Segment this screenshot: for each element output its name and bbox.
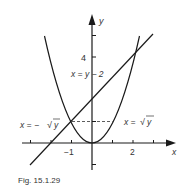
svg-text:y: y bbox=[146, 117, 152, 127]
svg-text:y: y bbox=[53, 120, 59, 130]
y-axis-arrow-icon bbox=[89, 14, 96, 25]
svg-text:√: √ bbox=[140, 117, 145, 127]
x-axis-arrow-icon bbox=[166, 140, 176, 147]
figure-canvas: y x 4 −1 2 x = y − 2 x = − √ y x = √ y F… bbox=[0, 0, 187, 189]
svg-text:x =: x = bbox=[123, 117, 136, 127]
line-equation-label: x = y − 2 bbox=[70, 69, 104, 79]
right-branch-label: x = √ y bbox=[123, 116, 154, 127]
svg-text:x = −: x = − bbox=[19, 120, 39, 130]
x-tick-label-neg1: −1 bbox=[64, 147, 74, 157]
y-tick-label-4: 4 bbox=[81, 53, 86, 63]
x-axis-label: x bbox=[171, 147, 177, 157]
left-branch-label: x = − √ y bbox=[19, 119, 60, 130]
figure-caption: Fig. 15.1.29 bbox=[18, 176, 61, 185]
x-tick-label-2: 2 bbox=[130, 147, 135, 157]
svg-text:√: √ bbox=[47, 120, 52, 130]
y-axis-label: y bbox=[98, 16, 104, 26]
